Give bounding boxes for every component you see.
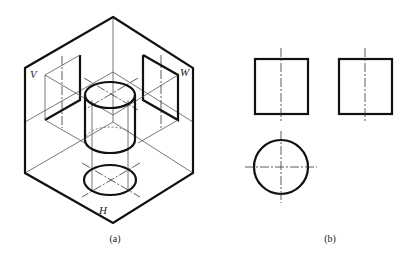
front-view xyxy=(255,48,308,122)
side-view xyxy=(339,48,392,122)
isometric-view: V W H (a) xyxy=(25,17,193,245)
w-projection-rect xyxy=(143,55,178,120)
label-h-plane: H xyxy=(98,204,108,216)
figure-canvas: V W H (a) (b) xyxy=(0,0,407,259)
v-plane-projection xyxy=(45,55,113,143)
caption-b: (b) xyxy=(324,233,336,245)
inner-edge-right xyxy=(113,72,193,122)
side-view-rectangle xyxy=(339,59,392,114)
label-v-plane: V xyxy=(30,68,38,80)
front-view-rectangle xyxy=(255,59,308,114)
w-projector-bottom xyxy=(138,120,178,143)
label-w-plane: W xyxy=(180,66,190,78)
box-outline-hexagon xyxy=(25,17,193,223)
h-plane-projection xyxy=(82,163,140,197)
top-view xyxy=(245,131,317,203)
w-projector-top xyxy=(113,75,178,115)
w-plane-projection xyxy=(113,55,178,143)
inner-edge-left xyxy=(25,72,113,122)
v-projector-bottom xyxy=(45,120,85,143)
caption-a: (a) xyxy=(109,233,120,245)
orthographic-views: (b) xyxy=(245,48,392,245)
cylinder xyxy=(84,78,138,190)
